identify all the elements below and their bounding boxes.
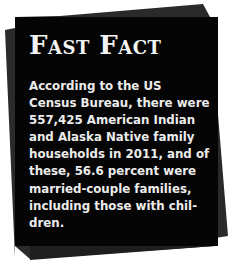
body-line: households in 2011, and of xyxy=(29,146,219,163)
body-line: 557,425 American Indian xyxy=(29,112,219,129)
body-line: Census Bureau, there were xyxy=(29,95,219,112)
body-line: married-couple families, xyxy=(29,181,219,198)
card-body: According to the US Census Bureau, there… xyxy=(29,78,219,232)
back-sheet-bottom-edge xyxy=(30,246,215,260)
body-line: these, 56.6 percent were xyxy=(29,163,219,180)
body-line: including those with chil- xyxy=(29,198,219,215)
body-line: and Alaska Native family xyxy=(29,129,219,146)
body-line: dren. xyxy=(29,215,219,232)
card-title: Fast Fact xyxy=(29,30,162,60)
body-line: According to the US xyxy=(29,78,219,95)
